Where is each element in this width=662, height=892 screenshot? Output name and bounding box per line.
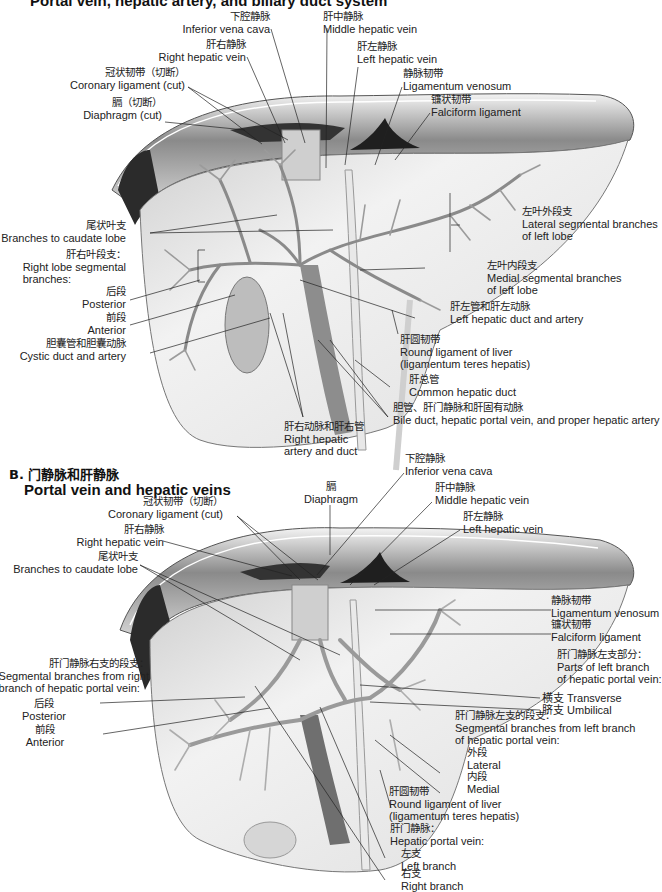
label-en: Left hepatic duct and artery xyxy=(450,313,583,326)
label-en: Posterior xyxy=(82,298,126,311)
label-zh: 冠状韧带（切断） xyxy=(108,495,223,508)
label-en: Common hepatic duct xyxy=(409,386,516,399)
label-en: Posterior xyxy=(18,710,70,723)
label-zh: 冠状韧带（切断） xyxy=(70,66,185,79)
label-a-falciform: 镰状韧带 Falciform ligament xyxy=(431,93,521,118)
label-zh: 肝门静脉： xyxy=(390,822,484,835)
label-en: of left lobe xyxy=(522,230,658,243)
label-a-rhv: 肝右静脉 Right hepatic vein xyxy=(159,38,246,63)
label-b-anterior: 前段 Anterior xyxy=(20,723,70,748)
label-zh: 尾状叶支 xyxy=(13,550,138,563)
label-zh: 外段 xyxy=(467,746,501,759)
label-zh: 肝圆韧带 xyxy=(400,333,530,346)
label-en: Cystic duct and artery xyxy=(20,350,126,363)
label-b-ivc: 下腔静脉 Inferior vena cava xyxy=(405,452,492,477)
label-a-right-lobe: 肝右叶段支： Right lobe segmental branches: xyxy=(23,248,126,286)
label-zh: 肝门静脉左支部分： xyxy=(557,648,662,661)
label-en: (ligamentum teres hepatis) xyxy=(400,358,530,371)
label-a-cystic: 胆囊管和胆囊动脉 Cystic duct and artery xyxy=(20,337,126,362)
label-zh: 肝左管和肝左动脉 xyxy=(450,300,583,313)
label-zh: 肝门静脉左支的段支： xyxy=(455,709,635,722)
label-a-left-duct-artery: 肝左管和肝左动脉 Left hepatic duct and artery xyxy=(450,300,583,325)
label-en: Anterior xyxy=(20,736,70,749)
label-a-caudate: 尾状叶支 Branches to caudate lobe xyxy=(1,219,126,244)
label-b-portal-vein: 肝门静脉： Hepatic portal vein: xyxy=(390,822,484,847)
label-b-lig-venosum: 静脉韧带 Ligamentum venosum xyxy=(551,594,659,619)
label-en: Medial segmental branches xyxy=(487,272,622,285)
label-zh: 下腔静脉 xyxy=(405,452,492,465)
label-zh: 胆管、肝门静脉和肝固有动脉 xyxy=(393,401,660,414)
label-en: Right hepatic vein xyxy=(77,536,164,549)
label-en: Middle hepatic vein xyxy=(435,494,529,507)
label-en: Branches to caudate lobe xyxy=(1,232,126,245)
label-zh: 肝总管 xyxy=(409,373,516,386)
label-zh: 肝圆韧带 xyxy=(389,785,519,798)
label-zh: 肝中静脉 xyxy=(323,10,417,23)
label-b-left-segmental: 肝门静脉左支的段支： Segmental branches from left … xyxy=(455,709,635,747)
label-en: Diaphragm xyxy=(296,493,366,506)
label-a-mhv: 肝中静脉 Middle hepatic vein xyxy=(323,10,417,35)
label-zh: 肝右静脉 xyxy=(77,523,164,536)
label-a-ivc: 下腔静脉 Inferior vena cava xyxy=(183,10,270,35)
label-b-transverse: 横支 Transverse xyxy=(542,692,622,705)
label-a-lateral-seg: 左叶外段支 Lateral segmental branches of left… xyxy=(522,205,658,243)
label-en: Hepatic portal vein: xyxy=(390,835,484,848)
label-en: of hepatic portal vein: xyxy=(557,673,662,686)
label-en: Anterior xyxy=(87,324,126,337)
label-en: Diaphragm (cut) xyxy=(83,109,162,122)
label-en: Segmental branches from left branch xyxy=(455,722,635,735)
label-en: Right hepatic xyxy=(284,433,364,446)
label-en: Lateral segmental branches xyxy=(522,218,658,231)
label-zh: 前段 xyxy=(87,311,126,324)
label-a-anterior: 前段 Anterior xyxy=(87,311,126,336)
label-b-lhv: 肝左静脉 Left hepatic vein xyxy=(463,510,543,535)
label-en: Inferior vena cava xyxy=(183,23,270,36)
label-b-mhv: 肝中静脉 Middle hepatic vein xyxy=(435,481,529,506)
label-en: (ligamentum teres hepatis) xyxy=(389,810,519,823)
label-b-caudate: 尾状叶支 Branches to caudate lobe xyxy=(13,550,138,575)
label-zh: 镰状韧带 xyxy=(431,93,521,106)
label-zh: 下腔静脉 xyxy=(183,10,270,23)
label-zh: 横支 xyxy=(542,692,564,704)
label-b-right-branch: 右支 Right branch xyxy=(401,867,463,892)
label-zh: 肝门静脉右支的段支： xyxy=(0,657,149,670)
label-a-posterior: 后段 Posterior xyxy=(82,285,126,310)
label-a-bile-duct: 胆管、肝门静脉和肝固有动脉 Bile duct, hepatic portal … xyxy=(393,401,660,426)
label-zh: 膈（切断） xyxy=(83,96,162,109)
label-b-posterior: 后段 Posterior xyxy=(18,697,70,722)
label-en: Falciform ligament xyxy=(431,106,521,119)
label-en: Left hepatic vein xyxy=(463,523,543,536)
label-a-lig-venosum: 静脉韧带 Ligamentum venosum xyxy=(403,67,511,92)
label-en: of hepatic portal vein: xyxy=(455,734,635,747)
label-en: Right lobe segmental xyxy=(23,261,126,274)
label-en: Inferior vena cava xyxy=(405,465,492,478)
label-zh: 膈 xyxy=(296,480,366,493)
label-zh: 镰状韧带 xyxy=(551,618,641,631)
label-en: Ligamentum venosum xyxy=(403,80,511,93)
label-b-round-lig: 肝圆韧带 Round ligament of liver (ligamentum… xyxy=(389,785,519,823)
label-zh: 前段 xyxy=(20,723,70,736)
label-zh: 左叶外段支 xyxy=(522,205,658,218)
label-zh: 内段 xyxy=(467,770,499,783)
label-b-right-segmental: 肝门静脉右支的段支： Segmental branches from right… xyxy=(0,657,149,695)
label-zh: 胆囊管和胆囊动脉 xyxy=(20,337,126,350)
label-a-right-artery-duct: 肝右动脉和肝右管 Right hepatic artery and duct xyxy=(284,420,364,458)
label-b-diaphragm: 膈 Diaphragm xyxy=(296,480,366,505)
label-zh: 尾状叶支 xyxy=(1,219,126,232)
panel-a-title: Portal vein, hepatic artery, and biliary… xyxy=(30,0,387,9)
label-en: branch of hepatic portal vein: xyxy=(0,682,149,695)
label-en: Coronary ligament (cut) xyxy=(70,79,185,92)
label-en: Branches to caudate lobe xyxy=(13,563,138,576)
label-zh: 肝左静脉 xyxy=(463,510,543,523)
label-a-coronary: 冠状韧带（切断） Coronary ligament (cut) xyxy=(70,66,185,91)
label-a-lhv: 肝左静脉 Left hepatic vein xyxy=(357,40,437,65)
label-zh: 后段 xyxy=(18,697,70,710)
label-en: Middle hepatic vein xyxy=(323,23,417,36)
label-zh: 左支 xyxy=(401,847,456,860)
label-en: Parts of left branch xyxy=(557,661,662,674)
label-zh: 左叶内段支 xyxy=(487,259,622,272)
label-a-common-duct: 肝总管 Common hepatic duct xyxy=(409,373,516,398)
label-zh: 静脉韧带 xyxy=(551,594,659,607)
label-en: Falciform ligament xyxy=(551,631,641,644)
label-en: branches: xyxy=(23,273,126,286)
